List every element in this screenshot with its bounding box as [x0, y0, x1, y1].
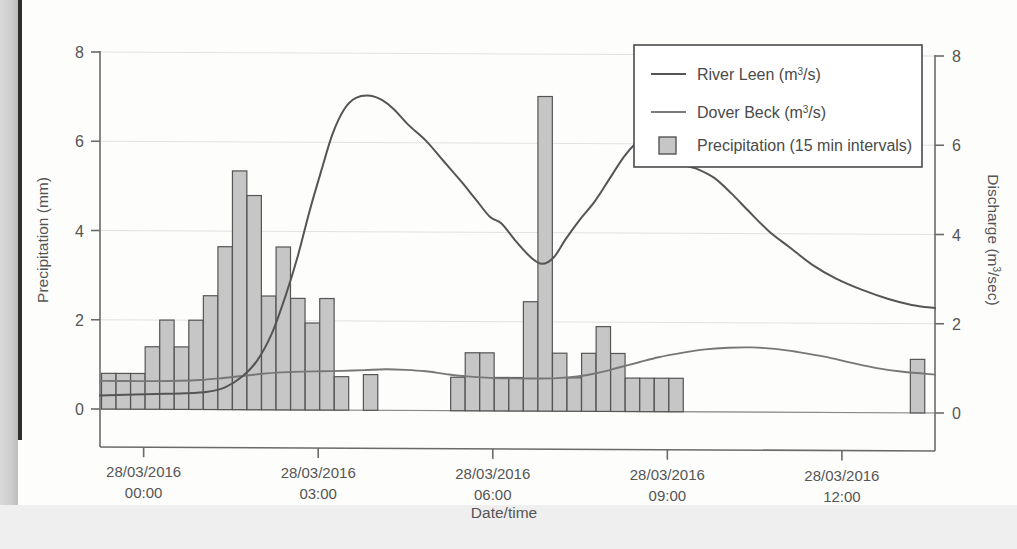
chart-svg: 02468 02468 28/03/201600:0028/03/201603:…: [0, 0, 1017, 549]
precipitation-bar: [451, 377, 465, 410]
x-axis-ticks: 28/03/201600:0028/03/201603:0028/03/2016…: [106, 447, 879, 504]
x-axis-title: Date/time: [471, 504, 537, 521]
x-tick-label-date: 28/03/2016: [804, 467, 879, 484]
x-tick-label-date: 28/03/2016: [281, 464, 356, 481]
legend-label-river-leen: River Leen (m3/s): [697, 66, 821, 83]
y-tick-label-right: 6: [952, 137, 961, 154]
precipitation-bar: [189, 320, 203, 409]
precipitation-bar: [538, 97, 552, 412]
y-axis-left-ticks: 02468: [75, 44, 100, 418]
chart-figure: 02468 02468 28/03/201600:0028/03/201603:…: [0, 0, 1017, 549]
x-tick-label-time: 12:00: [823, 488, 861, 505]
precipitation-bar: [509, 378, 523, 411]
y-tick-label-right: 4: [952, 227, 961, 244]
precipitation-bar: [567, 378, 581, 411]
x-tick-label-date: 28/03/2016: [630, 466, 705, 483]
precipitation-bar: [262, 296, 276, 410]
y-tick-label-right: 0: [952, 405, 961, 422]
precipitation-bar: [552, 353, 566, 411]
precipitation-bar: [276, 247, 290, 410]
chart-legend: River Leen (m3/s) Dover Beck (m3/s) Prec…: [634, 45, 922, 167]
svg-text:Discharge (m3/sec): Discharge (m3/sec): [985, 174, 1002, 305]
precipitation-bar: [625, 378, 639, 411]
precipitation-bar: [465, 353, 479, 411]
precipitation-bar: [910, 359, 924, 413]
precipitation-bar: [305, 323, 319, 410]
precipitation-bar: [291, 298, 305, 410]
precipitation-bar: [494, 377, 508, 410]
precipitation-bar: [145, 347, 159, 409]
precipitation-bar: [596, 327, 610, 412]
y-tick-label-left: 6: [75, 133, 84, 150]
y-tick-label-left: 0: [75, 401, 84, 418]
legend-label-precipitation: Precipitation (15 min intervals): [697, 137, 912, 154]
precipitation-bar: [582, 353, 596, 411]
gridline: [100, 231, 935, 235]
y-tick-label-right: 8: [952, 48, 961, 65]
x-tick-label-time: 00:00: [125, 484, 163, 501]
precipitation-bar: [363, 375, 377, 411]
x-tick-label-time: 09:00: [649, 487, 687, 504]
precipitation-bar: [669, 378, 683, 411]
precipitation-bar: [131, 373, 145, 409]
precipitation-bar: [102, 373, 116, 409]
x-tick-label-time: 06:00: [474, 486, 512, 503]
x-axis-line: [100, 447, 935, 451]
precipitation-bar: [654, 378, 668, 411]
y-tick-label-left: 8: [75, 44, 84, 61]
y-axis-left-title: Precipitation (mm): [34, 177, 51, 303]
y-tick-label-right: 2: [952, 316, 961, 333]
precipitation-bar: [320, 299, 334, 411]
x-tick-label-time: 03:00: [299, 485, 337, 502]
precipitation-bar: [640, 378, 654, 411]
y-axis-right-title: Discharge (m3/sec): [985, 174, 1002, 305]
precipitation-bar: [174, 347, 188, 409]
precipitation-bar: [160, 320, 174, 409]
precipitation-bar: [523, 302, 537, 411]
precipitation-bar: [116, 373, 130, 409]
precipitation-bar: [247, 196, 261, 410]
x-tick-label-date: 28/03/2016: [106, 463, 181, 480]
x-tick-label-date: 28/03/2016: [455, 465, 530, 482]
y-tick-label-left: 2: [75, 312, 84, 329]
y-axis-right-ticks: 02468: [935, 48, 961, 422]
precipitation-bar: [480, 353, 494, 411]
y-tick-label-left: 4: [75, 223, 84, 240]
legend-swatch-precipitation: [659, 137, 676, 154]
precipitation-bar: [334, 377, 348, 410]
precipitation-bar: [611, 353, 625, 411]
